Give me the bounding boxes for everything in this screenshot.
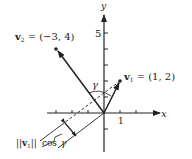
vector-v1 bbox=[104, 79, 122, 113]
v1-tip-dot bbox=[118, 79, 122, 83]
angle-arc bbox=[89, 91, 111, 96]
x-tick-label: 1 bbox=[118, 116, 124, 126]
vector-diagram: 1 x 5 y γ v2= (−3, 4) bbox=[0, 0, 192, 159]
y-tick-label: 5 bbox=[95, 28, 101, 39]
x-axis-label: x bbox=[161, 108, 167, 119]
y-axis: 5 y bbox=[95, 1, 108, 152]
y-axis-label: y bbox=[100, 1, 107, 11]
v2-tip-dot bbox=[54, 47, 58, 51]
v2-label: v2= (−3, 4) bbox=[14, 31, 75, 43]
v1-label: v1= (1, 2) bbox=[123, 71, 175, 83]
angle-gamma-label: γ bbox=[92, 79, 98, 90]
